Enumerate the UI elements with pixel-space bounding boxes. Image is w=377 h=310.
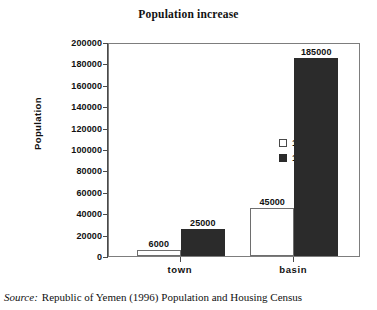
- y-tick-mark: [103, 257, 108, 258]
- bar-basin-1975[interactable]: [250, 208, 294, 256]
- y-tick-label: 40000: [48, 209, 102, 219]
- dark-square-icon: [279, 154, 287, 162]
- bar-value-town-1975: 6000: [131, 239, 187, 249]
- x-category-label-town: town: [168, 264, 193, 275]
- y-tick-label: 120000: [48, 124, 102, 134]
- y-tick-mark: [103, 129, 108, 130]
- y-tick-label: 140000: [48, 102, 102, 112]
- y-tick-label: 100000: [48, 145, 102, 155]
- x-category-label-basin: basin: [279, 264, 307, 275]
- y-tick-mark: [103, 43, 108, 44]
- y-tick-mark: [103, 193, 108, 194]
- bar-value-basin-1994: 185000: [288, 47, 344, 57]
- y-tick-label: 20000: [48, 231, 102, 241]
- y-tick-mark: [103, 171, 108, 172]
- y-tick-mark: [103, 107, 108, 108]
- y-tick-mark: [103, 214, 108, 215]
- light-square-icon: [279, 139, 287, 147]
- source-label: Source:: [4, 291, 38, 303]
- y-tick-label: 200000: [48, 38, 102, 48]
- y-tick-label: 80000: [48, 166, 102, 176]
- bar-basin-1994[interactable]: [294, 58, 338, 256]
- y-axis-tick-labels: 2000001800001600001400001200001000008000…: [48, 43, 102, 257]
- y-tick-mark: [103, 236, 108, 237]
- bar-value-basin-1975: 45000: [244, 197, 300, 207]
- y-tick-label: 180000: [48, 59, 102, 69]
- source-text: Republic of Yemen (1996) Population and …: [42, 291, 302, 303]
- bar-town-1975[interactable]: [137, 250, 181, 256]
- chart-figure: Population 20000018000016000014000012000…: [0, 0, 377, 285]
- y-tick-mark: [103, 64, 108, 65]
- y-axis-title: Population: [32, 79, 43, 169]
- x-tick-mark: [293, 257, 294, 262]
- plot-area: 1975 1994 60002500045000185000: [108, 43, 360, 257]
- source-caption: Source:Republic of Yemen (1996) Populati…: [4, 291, 302, 303]
- x-tick-mark: [180, 257, 181, 262]
- bar-town-1994[interactable]: [181, 229, 225, 256]
- y-tick-mark: [103, 150, 108, 151]
- y-tick-mark: [103, 86, 108, 87]
- bar-value-town-1994: 25000: [175, 218, 231, 228]
- y-tick-label: 0: [48, 252, 102, 262]
- y-tick-label: 160000: [48, 81, 102, 91]
- y-tick-label: 60000: [48, 188, 102, 198]
